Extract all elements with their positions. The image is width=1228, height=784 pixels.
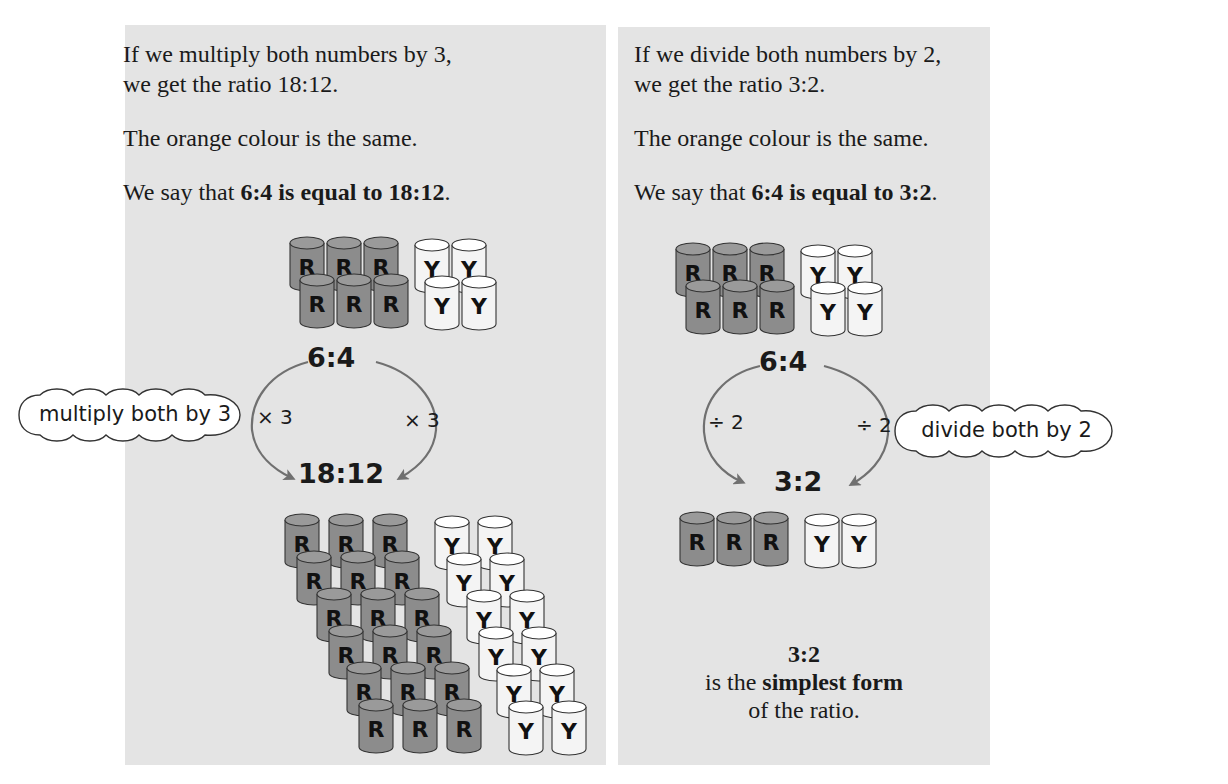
conclusion-line-2: is the simplest form <box>618 668 990 696</box>
yellow-drum-icon: Y <box>805 514 839 568</box>
svg-text:R: R <box>689 530 706 555</box>
conclusion-ratio: 3:2 <box>618 640 990 668</box>
svg-text:R: R <box>726 530 743 555</box>
svg-text:Y: Y <box>813 532 831 557</box>
svg-text:Y: Y <box>850 532 868 557</box>
right-bottom-drum-group: RRRYY <box>0 0 1228 784</box>
red-drum-icon: R <box>717 512 751 566</box>
conclusion-line-3: of the ratio. <box>618 696 990 724</box>
red-drum-icon: R <box>680 512 714 566</box>
svg-text:R: R <box>763 530 780 555</box>
red-drum-icon: R <box>754 512 788 566</box>
yellow-drum-icon: Y <box>842 514 876 568</box>
simplest-form-term: simplest form <box>762 669 903 695</box>
